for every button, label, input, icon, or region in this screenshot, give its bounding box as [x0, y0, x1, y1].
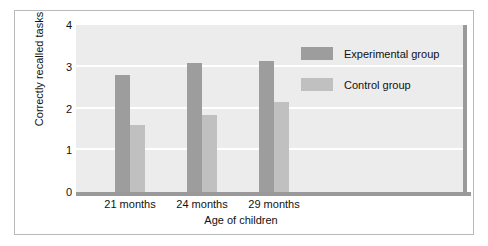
bar-control [202, 115, 217, 192]
y-axis-title: Correctly recalled tasks [33, 0, 45, 139]
legend-item: Experimental group [301, 47, 451, 60]
x-axis-tick-label: 29 months [239, 198, 309, 210]
y-axis-tick-labels: 43210 [44, 25, 72, 192]
legend-label: Control group [344, 79, 411, 91]
y-axis-tick-label: 2 [50, 104, 72, 115]
bar-control [130, 125, 145, 192]
y-axis-tick-label: 1 [50, 145, 72, 156]
legend-label: Experimental group [344, 48, 439, 60]
y-axis-tick-label: 0 [50, 187, 72, 198]
legend-item: Control group [301, 78, 451, 91]
x-axis-tick-label: 24 months [167, 198, 237, 210]
x-axis-title: Age of children [76, 214, 406, 226]
bar-experimental [187, 63, 202, 192]
gridline [76, 23, 463, 25]
bar-experimental [115, 75, 130, 192]
x-axis-tick-label: 21 months [95, 198, 165, 210]
bar-control [274, 102, 289, 192]
x-axis-line [76, 192, 471, 196]
y-axis-tick-label: 4 [50, 20, 72, 31]
legend-swatch [301, 78, 333, 91]
chart-legend: Experimental groupControl group [301, 47, 451, 109]
chart-figure: 43210 Correctly recalled tasks 21 months… [14, 10, 474, 235]
y-axis-tick-label: 3 [50, 62, 72, 73]
legend-swatch [301, 47, 333, 60]
bar-experimental [259, 61, 274, 193]
